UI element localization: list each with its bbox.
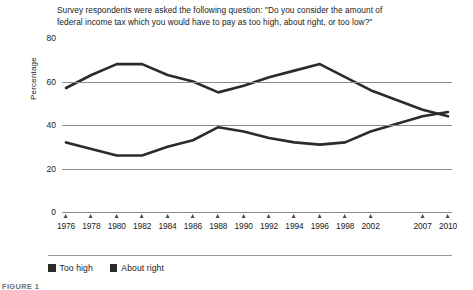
figure-container: Survey respondents were asked the follow… <box>0 0 473 290</box>
plot-area: Percentage 02040608019761978198019821984… <box>62 38 452 212</box>
y-axis-label: Percentage <box>29 57 38 100</box>
x-tick-mark-1986 <box>191 214 195 218</box>
chart-legend: Too highAbout right <box>48 263 164 273</box>
x-tick-2002: 2002 <box>361 221 379 231</box>
y-tick-60: 60 <box>47 77 56 87</box>
y-tick-40: 40 <box>47 120 56 130</box>
figure-title: Survey respondents were asked the follow… <box>57 4 457 28</box>
x-tick-mark-1992 <box>267 214 271 218</box>
x-tick-1976: 1976 <box>57 221 75 231</box>
y-tick-20: 20 <box>47 164 56 174</box>
x-tick-mark-1998 <box>343 214 347 218</box>
x-tick-mark-2007 <box>420 214 424 218</box>
x-tick-mark-1984 <box>165 214 169 218</box>
figure-title-line-2: federal income tax which you would have … <box>57 16 457 28</box>
y-tick-80: 80 <box>47 33 56 43</box>
x-tick-2010: 2010 <box>439 221 457 231</box>
gridline-40 <box>62 125 452 126</box>
square-swatch-icon <box>48 264 56 272</box>
figure-caption: FIGURE 1 <box>2 282 39 290</box>
legend-item-too-high[interactable]: Too high <box>48 263 93 273</box>
series-line-too-high <box>66 64 448 116</box>
x-tick-1992: 1992 <box>260 221 278 231</box>
legend-label: Too high <box>60 263 93 273</box>
figure-title-line-1: Survey respondents were asked the follow… <box>57 4 457 16</box>
x-tick-mark-2002 <box>368 214 372 218</box>
x-tick-1994: 1994 <box>285 221 303 231</box>
x-tick-1984: 1984 <box>158 221 176 231</box>
series-line-about-right <box>66 112 448 156</box>
x-tick-mark-1994 <box>292 214 296 218</box>
x-tick-2007: 2007 <box>413 221 431 231</box>
x-tick-1980: 1980 <box>108 221 126 231</box>
legend-item-about-right[interactable]: About right <box>110 263 164 273</box>
x-axis-baseline <box>62 212 452 213</box>
x-tick-mark-1980 <box>114 214 118 218</box>
x-tick-1996: 1996 <box>311 221 329 231</box>
x-tick-1988: 1988 <box>209 221 227 231</box>
legend-divider <box>48 255 452 256</box>
square-swatch-icon <box>110 264 118 272</box>
x-tick-mark-1976 <box>64 214 68 218</box>
x-tick-mark-1982 <box>140 214 144 218</box>
x-tick-mark-2010 <box>446 214 450 218</box>
x-tick-mark-1978 <box>89 214 93 218</box>
x-tick-mark-1996 <box>317 214 321 218</box>
legend-label: About right <box>121 263 164 273</box>
x-tick-1982: 1982 <box>133 221 151 231</box>
gridline-60 <box>62 82 452 83</box>
x-tick-mark-1990 <box>241 214 245 218</box>
x-tick-1998: 1998 <box>336 221 354 231</box>
x-tick-1978: 1978 <box>82 221 100 231</box>
x-tick-1990: 1990 <box>235 221 253 231</box>
gridline-20 <box>62 169 452 170</box>
x-tick-1986: 1986 <box>184 221 202 231</box>
x-tick-mark-1988 <box>216 214 220 218</box>
y-tick-0: 0 <box>51 207 56 217</box>
